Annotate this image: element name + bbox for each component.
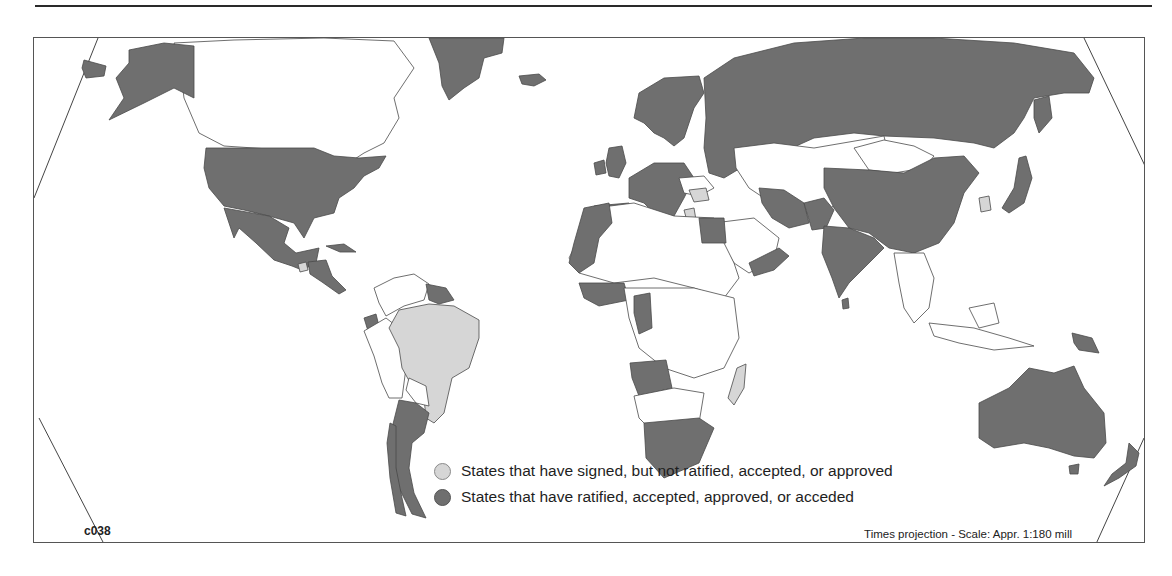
region-papua-new-guinea[interactable] bbox=[1072, 333, 1099, 353]
region-iceland[interactable] bbox=[519, 74, 546, 86]
region-borneo bbox=[969, 303, 999, 328]
legend-item-ratified: States that have ratified, accepted, app… bbox=[434, 484, 893, 510]
region-ireland[interactable] bbox=[594, 160, 606, 175]
region-alaska[interactable] bbox=[109, 43, 194, 120]
world-map: States that have signed, but not ratifie… bbox=[33, 37, 1145, 543]
region-australia[interactable] bbox=[979, 366, 1106, 458]
map-legend: States that have signed, but not ratifie… bbox=[434, 458, 893, 510]
projection-note: Times projection - Scale: Appr. 1:180 mi… bbox=[864, 528, 1072, 540]
region-madagascar[interactable] bbox=[728, 364, 746, 405]
region-cuba[interactable] bbox=[326, 244, 356, 252]
region-greenland[interactable] bbox=[429, 38, 504, 100]
region-kamchatka[interactable] bbox=[1034, 96, 1052, 133]
region-guatemala[interactable] bbox=[298, 262, 308, 272]
legend-item-signed: States that have signed, but not ratifie… bbox=[434, 458, 893, 484]
region-tasmania[interactable] bbox=[1069, 464, 1079, 474]
region-egypt[interactable] bbox=[699, 218, 726, 243]
region-guianas[interactable] bbox=[426, 284, 454, 304]
region-scandinavia[interactable] bbox=[634, 76, 704, 146]
region-chukotka[interactable] bbox=[82, 60, 106, 78]
region-new-zealand[interactable] bbox=[1104, 443, 1139, 486]
projection-edge-right bbox=[1084, 38, 1145, 168]
signed-swatch-icon bbox=[434, 463, 451, 480]
region-south-korea[interactable] bbox=[979, 196, 991, 212]
region-uk[interactable] bbox=[606, 146, 626, 178]
ratified-swatch-icon bbox=[434, 489, 451, 506]
region-japan[interactable] bbox=[1002, 156, 1032, 213]
legend-label-signed: States that have signed, but not ratifie… bbox=[461, 462, 893, 480]
legend-label-ratified: States that have ratified, accepted, app… bbox=[461, 488, 854, 506]
map-code: c038 bbox=[84, 524, 111, 538]
region-southeast-asia bbox=[894, 253, 934, 323]
region-romania[interactable] bbox=[689, 188, 709, 202]
top-rule bbox=[35, 5, 1152, 7]
region-west-africa[interactable] bbox=[579, 283, 629, 306]
region-sri-lanka[interactable] bbox=[842, 298, 849, 309]
region-central-america bbox=[308, 260, 346, 294]
region-canada bbox=[174, 38, 414, 166]
